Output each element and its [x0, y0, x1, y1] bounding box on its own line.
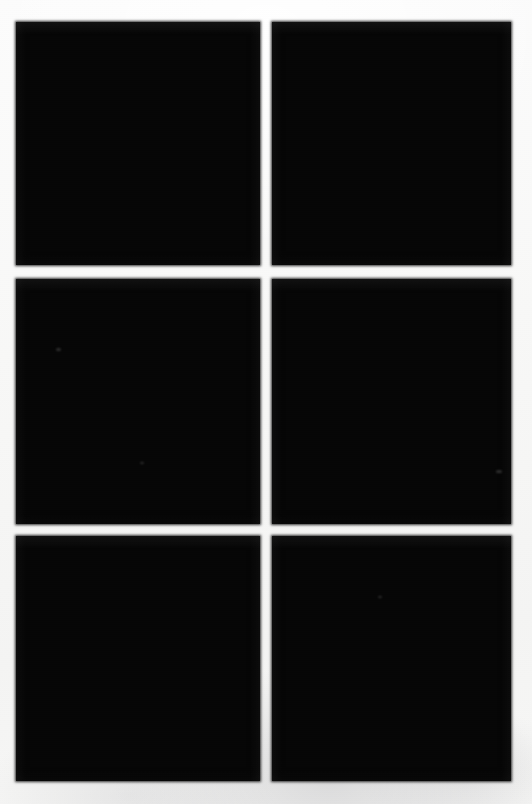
black-tile-middle-left [16, 279, 260, 524]
black-tile-middle-right [272, 279, 511, 524]
black-tile-bottom-left [16, 536, 260, 781]
black-tile-top-left [16, 22, 260, 265]
black-tile-bottom-right [272, 536, 511, 781]
black-tile-top-right [272, 22, 511, 265]
scanned-page [0, 0, 532, 804]
